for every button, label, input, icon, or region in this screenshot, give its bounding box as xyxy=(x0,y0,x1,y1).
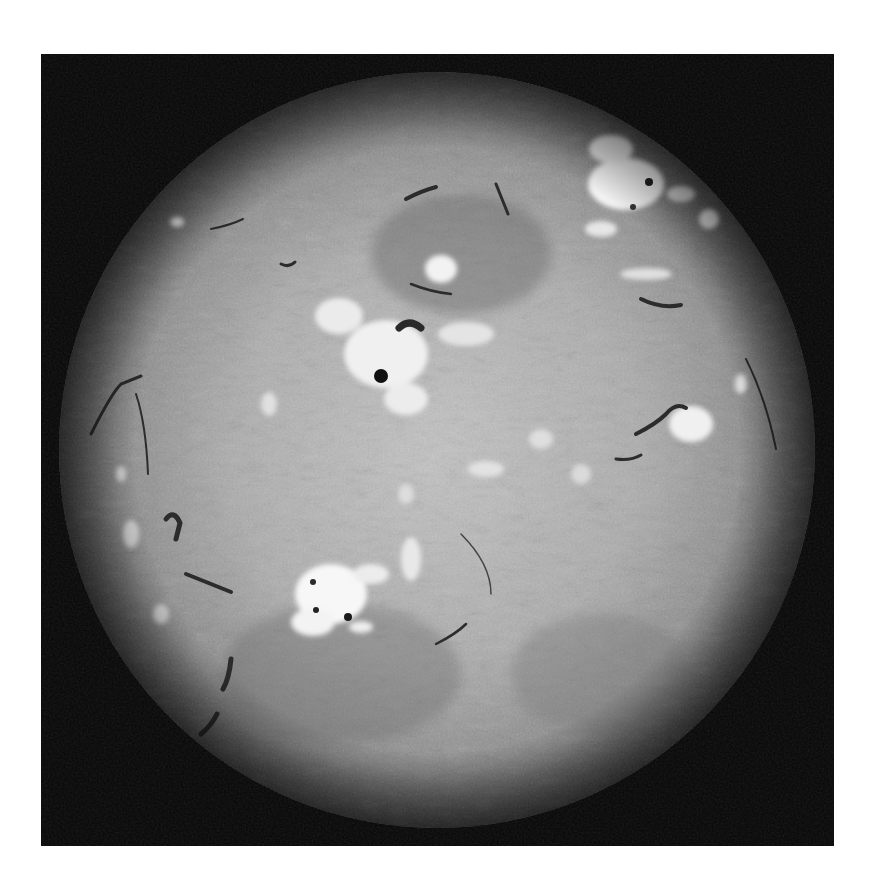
solar-disk-image xyxy=(41,54,834,846)
solar-image-frame xyxy=(41,54,834,846)
